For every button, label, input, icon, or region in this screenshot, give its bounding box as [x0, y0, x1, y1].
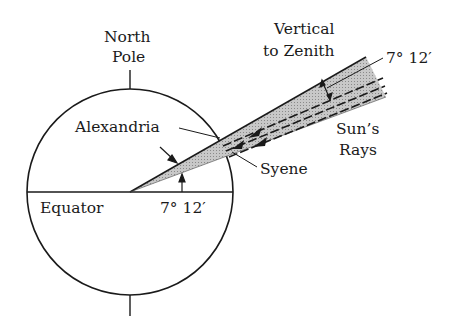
north-pole-label-1: North: [104, 28, 151, 46]
alexandria-label: Alexandria: [74, 118, 160, 136]
suns-rays-label-2: Rays: [339, 141, 377, 159]
wedge-upper-edge: [130, 57, 366, 192]
eratosthenes-diagram: North Pole Vertical to Zenith 7° 12′ Ale…: [0, 0, 454, 329]
top-angle-label: 7° 12′: [386, 49, 432, 67]
vertical-label-1: Vertical: [273, 20, 334, 38]
equator-label: Equator: [40, 199, 104, 217]
syene-label: Syene: [260, 160, 308, 178]
syene-leader: [232, 152, 257, 167]
vertical-label-2: to Zenith: [263, 42, 335, 60]
suns-rays-label-1: Sun’s: [336, 120, 380, 138]
north-pole-label-2: Pole: [112, 48, 145, 66]
center-angle-label: 7° 12′: [160, 199, 206, 217]
